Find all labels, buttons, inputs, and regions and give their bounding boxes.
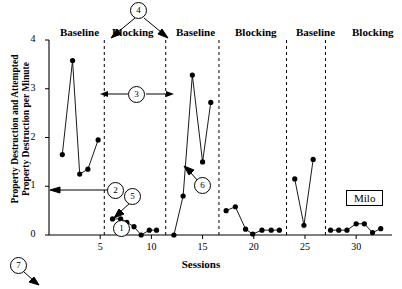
data-point — [233, 204, 238, 209]
data-point — [60, 152, 65, 157]
data-point — [370, 230, 375, 235]
data-point — [259, 228, 264, 233]
data-point — [70, 58, 75, 63]
series-line-1 — [62, 60, 98, 174]
x-tick-25: 25 — [293, 241, 317, 252]
data-point — [171, 232, 176, 237]
x-tick-20: 20 — [242, 241, 266, 252]
data-point — [344, 228, 349, 233]
phase-label-baseline-3: Baseline — [296, 26, 335, 38]
data-point — [354, 221, 359, 226]
data-point — [96, 137, 101, 142]
y-tick-1: 1 — [25, 179, 41, 190]
phase-label-blocking-3: Blocking — [352, 26, 394, 38]
x-tick-15: 15 — [191, 241, 215, 252]
data-point — [250, 231, 255, 236]
y-axis-label-line-2: Property Destruction per Minute — [21, 17, 32, 242]
axes — [49, 40, 392, 235]
data-point — [147, 228, 152, 233]
x-tick-5: 5 — [88, 241, 112, 252]
y-axis-label-line-1: Property Destruction and Attempted — [10, 17, 21, 242]
subject-label-box: Milo — [346, 190, 383, 206]
callout-1: 1 — [113, 220, 130, 237]
data-point — [243, 227, 248, 232]
data-point — [292, 176, 297, 181]
callout-7: 7 — [10, 257, 27, 274]
phase-label-baseline-2: Baseline — [176, 26, 215, 38]
x-axis-label: Sessions — [0, 258, 402, 270]
phase-label-baseline-1: Baseline — [60, 26, 99, 38]
data-series — [60, 58, 384, 238]
data-point — [224, 208, 229, 213]
series-line-3 — [174, 75, 211, 235]
data-point — [269, 228, 274, 233]
data-point — [336, 228, 341, 233]
data-point — [77, 171, 82, 176]
x-tick-10: 10 — [139, 241, 163, 252]
data-point — [301, 223, 306, 228]
data-point — [311, 157, 316, 162]
series-line-5 — [295, 159, 313, 225]
y-tick-2: 2 — [25, 131, 41, 142]
y-tick-3: 3 — [25, 82, 41, 93]
data-point — [181, 193, 186, 198]
y-axis-label: Property Destruction and Attempted Prope… — [10, 17, 32, 242]
callout-3: 3 — [128, 86, 145, 103]
callout-6: 6 — [194, 177, 211, 194]
phase-label-blocking-2: Blocking — [235, 26, 277, 38]
data-point — [200, 159, 205, 164]
y-tick-4: 4 — [25, 33, 41, 44]
data-point — [208, 100, 213, 105]
phase-change-lines — [104, 40, 325, 235]
data-point — [154, 228, 159, 233]
data-point — [328, 228, 333, 233]
data-point — [277, 228, 282, 233]
phase-label-blocking-1: Blocking — [112, 26, 154, 38]
data-point — [190, 73, 195, 78]
data-point — [139, 232, 144, 237]
y-tick-0: 0 — [25, 228, 41, 239]
axis-ticks — [45, 40, 356, 239]
data-point — [362, 221, 367, 226]
x-tick-30: 30 — [344, 241, 368, 252]
callout-4: 4 — [130, 2, 147, 19]
data-point — [131, 224, 136, 229]
data-point — [85, 167, 90, 172]
callout-2: 2 — [107, 182, 124, 199]
data-point — [378, 226, 383, 231]
callout-5: 5 — [124, 188, 141, 205]
chart-figure: Baseline Blocking Baseline Blocking Base… — [0, 0, 402, 289]
